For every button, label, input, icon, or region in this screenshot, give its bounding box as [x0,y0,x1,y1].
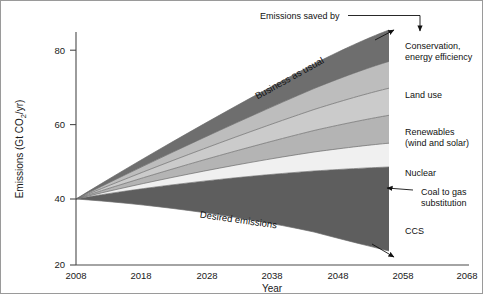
y-axis-title-unit: /yr) [14,100,25,114]
band-label-ccs: CCS [405,226,424,236]
x-tick-label-2038: 2038 [261,270,282,281]
arrow-coal-to-gas [387,188,413,190]
x-tick-label-2048: 2048 [327,270,348,281]
band-label-renewables-line1: Renewables [405,127,455,137]
y-tick-label-60: 60 [54,119,65,130]
x-axis-title: Year [262,283,283,294]
band-label-list: Conservation, energy efficiency Land use… [405,41,473,236]
band-label-conservation-line2: energy efficiency [405,52,473,62]
x-tick-label-2068: 2068 [456,270,477,281]
emissions-saved-by-leader [348,16,420,32]
emissions-saved-by-annotation: Emissions saved by [260,11,420,32]
y-tick-labels: 80 60 40 20 [54,45,65,271]
y-axis-title: Emissions (Gt CO2/yr) [14,100,28,199]
band-label-coal-to-gas-line2: substitution [421,198,467,208]
x-tick-label-2018: 2018 [130,270,151,281]
figure-container: 80 60 40 20 2008 2018 2028 2038 2048 205… [0,0,483,294]
x-tick-labels: 2008 2018 2028 2038 2048 2058 2068 [65,270,477,281]
emissions-wedge-chart: 80 60 40 20 2008 2018 2028 2038 2048 205… [1,1,483,294]
label-emissions-saved-by: Emissions saved by [260,11,340,21]
band-label-renewables-line2: (wind and solar) [405,138,469,148]
band-label-coal-to-gas-line1: Coal to gas [421,187,467,197]
y-tick-label-80: 80 [54,45,65,56]
x-tick-label-2028: 2028 [196,270,217,281]
x-tick-label-2058: 2058 [392,270,413,281]
band-label-coal-to-gas: Coal to gas substitution [421,187,469,208]
band-label-land-use: Land use [405,90,442,100]
band-label-renewables: Renewables (wind and solar) [405,127,469,148]
y-tick-label-40: 40 [54,193,65,204]
x-tick-label-2008: 2008 [65,270,86,281]
band-label-nuclear: Nuclear [405,168,436,178]
y-axis-title-text: Emissions (Gt CO [14,118,25,198]
band-label-conservation-line1: Conservation, [405,41,461,51]
y-tick-label-20: 20 [54,259,65,270]
band-label-conservation: Conservation, energy efficiency [405,41,473,62]
